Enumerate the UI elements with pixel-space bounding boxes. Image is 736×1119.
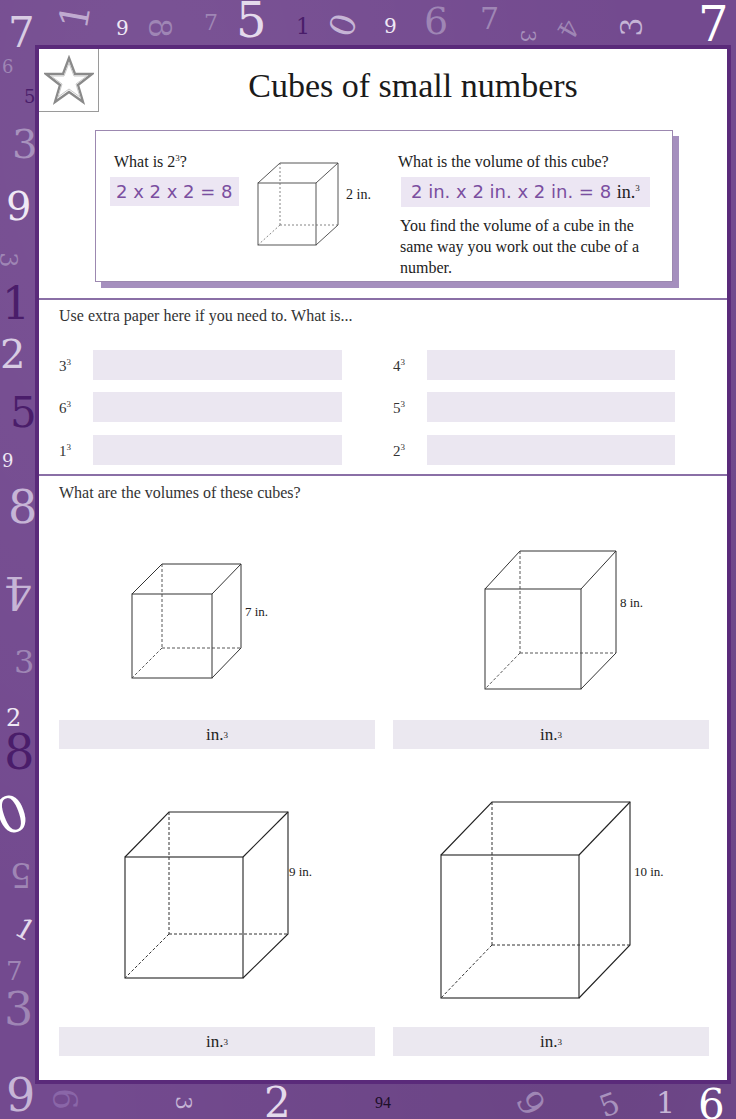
decor-digit: 9 (116, 18, 129, 38)
cube-dimension-label: 8 in. (620, 595, 643, 611)
decor-digit: 5 (10, 392, 37, 434)
exponent: 3 (223, 730, 228, 740)
decor-digit: 7 (8, 12, 35, 54)
decor-digit: 1 (10, 913, 39, 946)
cube-dimension-label: 7 in. (245, 604, 268, 620)
question-label: 53 (393, 399, 405, 417)
answer-input-4-cubed[interactable] (427, 350, 675, 380)
decor-digit: 2 (264, 1082, 291, 1119)
star-icon (44, 55, 94, 105)
decor-digit: 5 (595, 1088, 623, 1119)
decor-digit: 3 (617, 17, 647, 36)
decor-digit: 8 (8, 484, 37, 530)
decor-digit: 7 (204, 12, 218, 34)
cube-dimension-label: 10 in. (634, 864, 664, 880)
decor-digit: 2 (0, 334, 25, 374)
cube-diagram-10in: 10 in. (440, 800, 632, 1004)
decor-digit: 3 (518, 30, 538, 43)
unit-text: in. (206, 725, 223, 745)
volume-answer-box-8in[interactable]: in.3 (393, 720, 709, 749)
decor-digit: 9 (2, 452, 13, 470)
answer-input-6-cubed[interactable] (93, 392, 342, 422)
question-label: 13 (59, 442, 71, 460)
example-cube-diagram (256, 161, 346, 251)
volume-answer: 2 in. x 2 in. x 2 in. = 8 in.3 (401, 177, 650, 207)
worksheet-page: Cubes of small numbers What is 23? 2 x 2… (39, 49, 727, 1080)
decor-digit: 6 (48, 1088, 82, 1110)
exponent: 3 (557, 1037, 562, 1047)
volume-answer-box-9in[interactable]: in.3 (59, 1027, 375, 1056)
unit-text: in. (206, 1032, 223, 1052)
answer-input-1-cubed[interactable] (93, 435, 342, 465)
decor-digit: 6 (698, 1084, 725, 1119)
section-2-instruction: What are the volumes of these cubes? (59, 484, 301, 502)
star-badge (39, 49, 99, 112)
question-label: 43 (393, 357, 405, 375)
answer-input-2-cubed[interactable] (427, 435, 675, 465)
section-divider (39, 298, 727, 300)
question-mark: ? (180, 153, 187, 170)
explanation-text: You find the volume of a cube in the sam… (400, 215, 660, 278)
decor-digit: 5 (236, 0, 267, 44)
volume-question: What is the volume of this cube? (398, 153, 609, 171)
volume-unit: in.3 (617, 182, 640, 202)
decor-digit: 7 (6, 958, 23, 984)
question-label: 33 (59, 357, 71, 375)
unit-text: in. (540, 725, 557, 745)
decor-digit: 0 (323, 9, 362, 41)
decor-digit: 5 (10, 858, 32, 892)
decor-digit: 3 (4, 986, 33, 1032)
decor-digit: 7 (480, 4, 499, 34)
question-label: 23 (393, 442, 405, 460)
answer-input-5-cubed[interactable] (427, 392, 675, 422)
decor-digit: 6 (424, 2, 448, 40)
decor-digit: 1 (656, 1088, 675, 1118)
exponent: 3 (223, 1037, 228, 1047)
decor-digit: 9 (511, 1085, 551, 1119)
decor-digit: 2 (6, 706, 21, 730)
decor-digit: 9 (6, 1072, 35, 1118)
page-number: 94 (375, 1094, 391, 1112)
cube-diagram-8in: 8 in. (484, 549, 618, 695)
decor-digit: 6 (2, 58, 13, 76)
decor-digit: 1 (2, 282, 30, 326)
decor-digit: 3 (14, 646, 34, 678)
answer-input-3-cubed[interactable] (93, 350, 342, 380)
decor-digit: 9 (6, 186, 31, 226)
decor-digit: 1 (296, 16, 310, 38)
decor-digit: 9 (384, 16, 397, 36)
intro-example-box: What is 23? 2 x 2 x 2 = 8 2 in. What is … (95, 130, 673, 282)
decor-digit: 0 (0, 786, 35, 844)
cube-dimension-label: 9 in. (289, 864, 312, 880)
volume-answer-box-7in[interactable]: in.3 (59, 720, 375, 749)
decor-digit: 3 (172, 1096, 194, 1110)
example-question-text: What is 2 (114, 153, 175, 170)
decor-digit: 4 (553, 15, 584, 42)
page-title: Cubes of small numbers (99, 67, 727, 105)
decor-digit: 7 (698, 0, 729, 48)
decor-digit: 3 (0, 252, 20, 267)
cube-diagram-7in: 7 in. (131, 562, 243, 684)
section-1-instruction: Use extra paper here if you need to. Wha… (59, 307, 352, 325)
decor-digit: 3 (12, 124, 37, 164)
unit-text: in. (540, 1032, 557, 1052)
exponent: 3 (557, 730, 562, 740)
volume-answer-text: 2 in. x 2 in. x 2 in. = 8 (411, 181, 611, 202)
cube-diagram-9in: 9 in. (124, 810, 290, 984)
decor-digit: 4 (4, 570, 32, 614)
decor-digit: 8 (4, 728, 35, 776)
example-cube-dimension: 2 in. (346, 187, 371, 203)
decor-digit: 8 (144, 18, 176, 38)
unit-text: in. (617, 182, 636, 202)
example-answer: 2 x 2 x 2 = 8 (110, 177, 239, 206)
decor-digit: 5 (24, 88, 35, 106)
example-question: What is 23? (114, 153, 187, 171)
question-label: 63 (59, 399, 71, 417)
section-divider (39, 474, 727, 476)
volume-answer-box-10in[interactable]: in.3 (393, 1027, 709, 1056)
decor-digit: 1 (53, 0, 97, 32)
